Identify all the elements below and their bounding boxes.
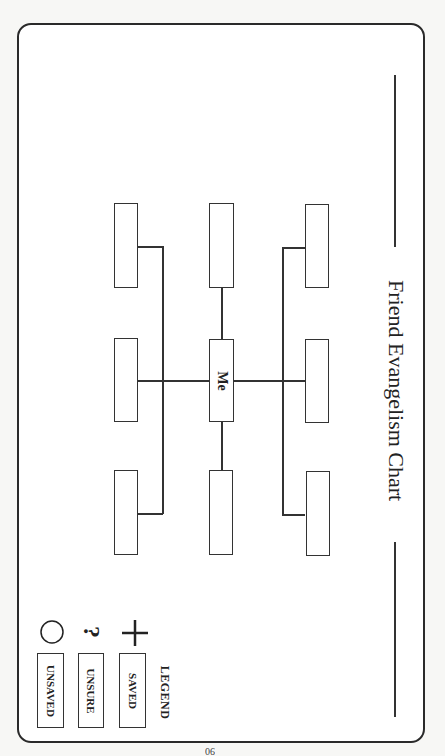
connector-right-top-branch — [282, 247, 305, 249]
legend-unsure: UNSURE — [78, 653, 104, 728]
friend-box-right-bottom[interactable] — [306, 471, 330, 556]
connector-center-top — [221, 288, 223, 339]
title-rule-bottom — [394, 542, 396, 717]
friend-box-right-top[interactable] — [305, 204, 329, 288]
friend-box-left-bottom[interactable] — [114, 470, 138, 555]
friend-box-center-bottom[interactable] — [209, 470, 233, 555]
connector-left-bottom-branch — [137, 513, 163, 515]
plus-icon — [120, 618, 150, 648]
connector-right-bottom-branch — [282, 514, 305, 516]
connector-right-vertical — [282, 247, 284, 515]
legend-unsaved: UNSAVED — [37, 653, 64, 728]
friend-box-center-top[interactable] — [209, 203, 234, 288]
friend-box-right-middle[interactable] — [305, 339, 329, 423]
connector-left-vertical — [162, 246, 164, 514]
friend-box-left-top[interactable] — [114, 203, 138, 288]
me-box: Me — [209, 339, 234, 422]
page-number: 90 — [205, 746, 215, 756]
circle-icon — [38, 618, 66, 646]
question-icon: ? — [79, 619, 105, 645]
legend-saved: SAVED — [119, 653, 146, 728]
chart-title: Friend Evangelism Chart — [383, 280, 409, 486]
title-rule-top — [394, 75, 396, 247]
me-label: Me — [214, 371, 230, 390]
connector-left-top-branch — [137, 246, 163, 248]
friend-box-left-middle[interactable] — [114, 338, 138, 422]
connector-center-bottom — [221, 422, 223, 470]
legend-title: LEGEND — [157, 663, 172, 723]
